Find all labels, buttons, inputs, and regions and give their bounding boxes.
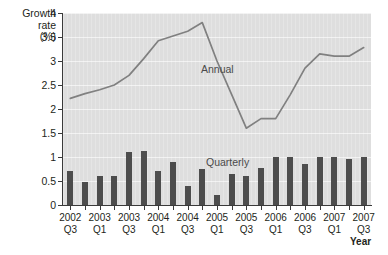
x-axis-tick-label: 2007Q3 <box>347 212 381 235</box>
plot-area <box>63 13 371 205</box>
x-axis-tick <box>290 206 291 210</box>
x-axis-tick <box>364 206 365 210</box>
y-axis-tick-label: 0 <box>30 200 56 211</box>
x-axis-tick-year: 2007 <box>347 212 381 224</box>
x-axis-tick-quarter: Q3 <box>347 224 381 236</box>
x-axis-tick <box>188 206 189 210</box>
y-axis-tick-label: 3.5 <box>30 32 56 43</box>
x-axis-tick <box>334 206 335 210</box>
x-axis-tick <box>261 206 262 210</box>
x-axis-tick <box>173 206 174 210</box>
y-axis-tick-label: 1.5 <box>30 128 56 139</box>
x-axis-caption: Year <box>350 236 371 247</box>
x-axis-tick <box>246 206 247 210</box>
y-axis-tick-label: 3 <box>30 56 56 67</box>
y-axis-tick <box>58 133 63 134</box>
y-axis-tick-label: 2 <box>30 104 56 115</box>
y-axis-tick-label: 2.5 <box>30 80 56 91</box>
x-axis-tick <box>114 206 115 210</box>
x-axis-tick <box>217 206 218 210</box>
y-axis-tick-label: 1 <box>30 152 56 163</box>
y-axis-tick-label: 4 <box>30 8 56 19</box>
y-axis-tick <box>58 205 63 206</box>
y-axis-tick-label: 0.5 <box>30 176 56 187</box>
x-axis-tick <box>305 206 306 210</box>
x-axis-tick <box>320 206 321 210</box>
y-axis-tick <box>58 85 63 86</box>
annual-line <box>63 13 371 205</box>
x-axis-tick <box>232 206 233 210</box>
x-axis-tick <box>202 206 203 210</box>
x-axis-tick <box>70 206 71 210</box>
y-axis-tick <box>58 157 63 158</box>
y-axis-tick <box>58 181 63 182</box>
x-axis-tick <box>158 206 159 210</box>
y-axis-labels: 00.511.522.533.54 <box>26 0 56 255</box>
growth-rate-chart: Growth rate (%) 00.511.522.533.54 2002Q3… <box>0 0 388 255</box>
x-axis-tick <box>276 206 277 210</box>
x-axis-tick <box>85 206 86 210</box>
x-axis-tick <box>100 206 101 210</box>
x-axis-tick <box>349 206 350 210</box>
y-axis-tick <box>58 13 63 14</box>
y-axis-tick <box>58 61 63 62</box>
quarterly-series-label: Quarterly <box>206 156 249 168</box>
x-axis-tick <box>129 206 130 210</box>
x-axis-tick <box>144 206 145 210</box>
annual-series-label: Annual <box>201 63 234 75</box>
y-axis-tick <box>58 37 63 38</box>
y-axis-tick <box>58 109 63 110</box>
